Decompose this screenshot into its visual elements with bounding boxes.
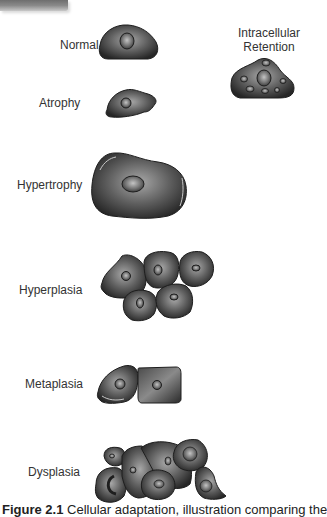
cell-group-hyperplasia bbox=[101, 251, 213, 320]
cell-normal bbox=[99, 25, 157, 59]
cell-atrophy bbox=[106, 89, 156, 117]
figure-number: Figure 2.1 bbox=[2, 502, 63, 517]
cell-hypertrophy bbox=[92, 153, 187, 218]
cell-intracellular-retention bbox=[231, 58, 294, 98]
figure-caption: Figure 2.1 Cellular adaptation, illustra… bbox=[2, 503, 327, 517]
figure-caption-text: Cellular adaptation, illustration compar… bbox=[67, 502, 327, 517]
cell-group-metaplasia bbox=[97, 365, 181, 403]
cell-group-dysplasia bbox=[95, 440, 226, 503]
